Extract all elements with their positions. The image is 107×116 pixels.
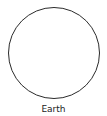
earth-label: Earth [0,104,107,115]
earth-circle [8,7,100,99]
